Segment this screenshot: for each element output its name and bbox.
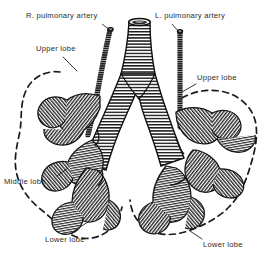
label-right-pulmonary-artery: R. pulmonary artery [26,12,97,20]
label-upper-lobe-left: Upper lobe [36,45,76,53]
trachea [121,18,155,74]
label-middle-lobe: Middle lobe [4,178,46,186]
label-lower-lobe-left: Lower lobe [45,236,85,244]
anatomical-figure: R. pulmonary artery L. pulmonary artery … [0,0,273,260]
label-upper-lobe-right: Upper lobe [197,74,237,82]
label-left-pulmonary-artery: L. pulmonary artery [155,12,225,20]
label-lower-lobe-right: Lower lobe [203,241,243,249]
bronchial-tree-illustration [0,0,273,260]
